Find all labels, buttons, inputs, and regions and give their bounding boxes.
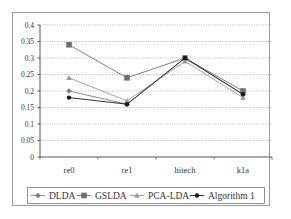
marker-circle — [183, 56, 187, 60]
y-tick-label: 0.4 — [25, 21, 35, 30]
x-tick-label: k1a — [237, 165, 250, 175]
y-tick-label: 0.25 — [21, 70, 34, 79]
x-tick-label: hitech — [175, 165, 197, 175]
legend-label: Algorithm 1 — [208, 191, 255, 201]
marker-circle — [125, 102, 129, 106]
marker-circle — [241, 92, 245, 96]
x-tick-label: re0 — [64, 165, 75, 175]
y-tick-label: 0 — [30, 153, 34, 162]
legend-label: PCA-LDA — [148, 191, 189, 201]
legend-label: DLDA — [49, 191, 76, 201]
marker-circle — [195, 193, 199, 197]
legend-label: GSLDA — [95, 191, 127, 201]
marker-square — [124, 75, 130, 81]
marker-square — [81, 193, 87, 199]
y-tick-label: 0.1 — [25, 120, 35, 129]
y-tick-label: 0.2 — [25, 87, 35, 96]
marker-circle — [67, 95, 71, 99]
y-tick-label: 0.35 — [21, 37, 34, 46]
line-chart: 00.050.10.150.20.250.30.350.4re0re1hitec… — [0, 0, 291, 219]
marker-square — [66, 42, 72, 48]
y-tick-label: 0.05 — [21, 136, 34, 145]
y-tick-label: 0.15 — [21, 103, 34, 112]
y-tick-label: 0.3 — [25, 54, 35, 63]
x-tick-label: re1 — [122, 165, 133, 175]
